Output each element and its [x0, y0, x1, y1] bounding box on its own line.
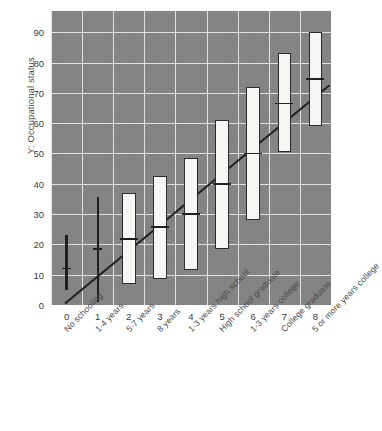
- y-tick-label-30: 30: [14, 209, 44, 220]
- y-tick-label-50: 50: [14, 148, 44, 159]
- y-tick-label-90: 90: [14, 27, 44, 38]
- y-tick-label-20: 20: [14, 239, 44, 250]
- y-tick-label-80: 80: [14, 57, 44, 68]
- y-tick-label-40: 40: [14, 178, 44, 189]
- y-tick-label-10: 10: [14, 269, 44, 280]
- y-tick-label-60: 60: [14, 118, 44, 129]
- y-tick-label-0: 0: [14, 300, 44, 311]
- y-tick-label-70: 70: [14, 87, 44, 98]
